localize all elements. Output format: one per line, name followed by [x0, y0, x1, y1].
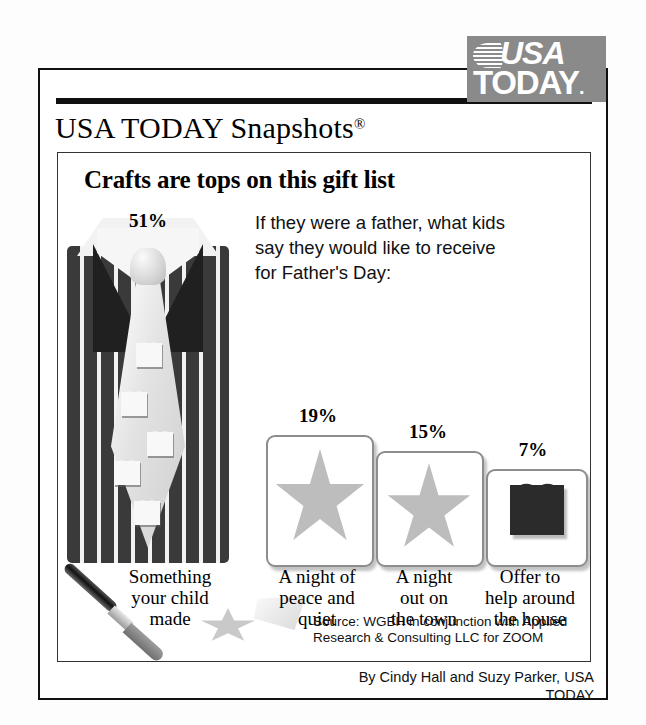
bar-card-peace-and-quiet — [266, 435, 374, 567]
category-line: help around — [472, 587, 588, 608]
heart-icon — [121, 392, 147, 416]
source-line-1: Source: WGBH in conjunction with Applied — [313, 614, 581, 630]
necktie-knot — [130, 248, 166, 285]
chart-stage: 51% 19% 15% 7% Something your child made… — [58, 153, 591, 662]
category-line: Offer to — [472, 566, 588, 587]
logo-period: . — [579, 76, 583, 98]
heart-icon — [136, 343, 162, 367]
value-label-15: 15% — [390, 421, 466, 443]
value-label-19: 19% — [280, 405, 356, 427]
logo-today-word: TODAY — [473, 64, 579, 101]
usa-today-logo: USA TODAY. — [467, 36, 606, 102]
category-line: A night — [370, 566, 478, 587]
value-label-7: 7% — [495, 439, 571, 461]
registered-trademark-icon: ® — [354, 116, 366, 132]
star-icon — [386, 463, 472, 555]
snapshot-page: USA TODAY Snapshots® USA TODAY. Crafts a… — [0, 0, 646, 725]
category-label-something-your-child-made: Something your child made — [106, 566, 234, 629]
byline: By Cindy Hall and Suzy Parker, USA TODAY — [318, 668, 594, 704]
source-line-2: Research & Consulting LLC for ZOOM — [313, 630, 581, 646]
suit-graphic — [67, 218, 229, 563]
source-note: Source: WGBH in conjunction with Applied… — [313, 614, 581, 646]
category-line: your child — [106, 587, 234, 608]
heart-icon — [114, 461, 140, 485]
category-line: Something — [106, 566, 234, 587]
category-line: A night of — [258, 566, 376, 587]
chart-panel: Crafts are tops on this gift list If the… — [57, 152, 591, 662]
heart-icon — [147, 432, 173, 456]
heart-icon — [510, 485, 564, 535]
value-label-51: 51% — [110, 210, 186, 232]
masthead-title-text: USA TODAY Snapshots — [55, 111, 354, 144]
heart-icon — [134, 501, 160, 525]
category-line: out on — [370, 587, 478, 608]
bar-card-night-out — [376, 451, 484, 567]
star-icon — [274, 449, 366, 549]
category-line: made — [106, 608, 234, 629]
bar-card-help-around-house — [486, 469, 588, 567]
category-line: peace and — [258, 587, 376, 608]
logo-today-text: TODAY. — [473, 66, 583, 102]
masthead-title: USA TODAY Snapshots® — [55, 105, 475, 145]
